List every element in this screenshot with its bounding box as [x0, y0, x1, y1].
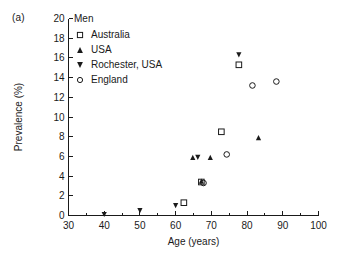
legend-title: Men: [73, 13, 203, 24]
filled-triangle-down-icon: [73, 58, 87, 72]
legend-marker: [77, 32, 82, 37]
legend-item: England: [73, 72, 203, 87]
x-tick-label: 60: [170, 220, 182, 231]
series-england: [201, 79, 279, 186]
data-point: [224, 152, 230, 158]
legend-item: Rochester, USA: [73, 57, 203, 72]
data-point: [102, 212, 107, 217]
y-tick-label: 20: [53, 13, 65, 24]
figure-panel: (a) 0246810121416182030405060708090100Ag…: [0, 0, 340, 261]
data-point: [190, 155, 195, 160]
data-point: [236, 62, 242, 68]
legend-marker: [77, 62, 83, 68]
data-point: [181, 200, 187, 206]
x-tick-label: 80: [242, 220, 254, 231]
y-tick-label: 16: [53, 52, 65, 63]
data-point: [219, 129, 225, 135]
y-tick-label: 14: [53, 72, 65, 83]
data-point: [250, 83, 256, 89]
y-tick-label: 2: [59, 190, 65, 201]
series-usa: [190, 135, 261, 184]
y-axis-title: Prevalence (%): [13, 83, 24, 151]
legend-rows: AustraliaUSARochester, USAEngland: [73, 27, 203, 87]
y-tick-label: 12: [53, 92, 65, 103]
data-point: [256, 135, 261, 140]
x-tick-label: 100: [310, 220, 327, 231]
data-point: [195, 155, 200, 160]
filled-triangle-up-icon: [73, 43, 87, 57]
legend-marker: [77, 47, 83, 53]
data-point: [236, 52, 241, 57]
x-tick-label: 50: [134, 220, 146, 231]
y-tick-label: 6: [59, 151, 65, 162]
data-point: [137, 208, 142, 213]
legend-item-label: Australia: [87, 29, 130, 40]
open-square-icon: [73, 28, 87, 42]
x-axis-title: Age (years): [168, 236, 220, 247]
data-point: [274, 79, 280, 85]
legend-item-label: Rochester, USA: [87, 59, 162, 70]
y-tick-label: 18: [53, 33, 65, 44]
data-point: [173, 203, 178, 208]
legend-item-label: USA: [87, 44, 112, 55]
data-point: [208, 155, 213, 160]
x-tick-label: 70: [206, 220, 218, 231]
x-tick-label: 30: [63, 220, 75, 231]
x-tick-label: 40: [99, 220, 111, 231]
chart-legend: Men AustraliaUSARochester, USAEngland: [73, 13, 203, 87]
x-tick-label: 90: [277, 220, 289, 231]
legend-item: Australia: [73, 27, 203, 42]
legend-item: USA: [73, 42, 203, 57]
open-circle-icon: [73, 73, 87, 87]
y-tick-label: 4: [59, 171, 65, 182]
legend-item-label: England: [87, 74, 128, 85]
legend-marker: [77, 77, 82, 82]
y-tick-label: 8: [59, 131, 65, 142]
y-tick-label: 10: [53, 112, 65, 123]
